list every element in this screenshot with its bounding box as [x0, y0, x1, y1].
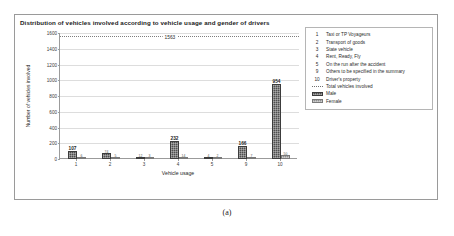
legend-code-key: 10: [310, 77, 324, 82]
legend-code-row: 9Others to be specified in the summary: [310, 68, 428, 75]
x-axis-tick-label: 2: [109, 162, 112, 167]
swatch-glyph: [312, 92, 323, 96]
bar-female[interactable]: 3: [145, 157, 154, 159]
bar-male[interactable]: 954: [272, 84, 281, 159]
y-axis-tick-label: 800: [49, 94, 57, 99]
x-axis-tick-label: 1: [75, 162, 78, 167]
y-axis-tick-label: 1000: [47, 78, 57, 83]
legend-code-label: Others to be specified in the summary: [324, 69, 405, 74]
x-axis-tick-mark: [212, 159, 213, 161]
x-axis-tick-mark: [144, 159, 145, 161]
bar-value-label: 12: [139, 154, 143, 158]
bar-value-label: 166: [238, 141, 246, 146]
legend-series-row[interactable]: Total vehicles involved: [310, 83, 428, 90]
legend-series-keys: Total vehicles involvedMaleFemale: [310, 83, 428, 105]
legend-series-label: Female: [324, 99, 342, 104]
legend-dotted-line-swatch: [310, 86, 324, 87]
bar-value-label: 232: [170, 136, 178, 141]
bar-female[interactable]: 7: [247, 157, 256, 159]
legend-code-row: 5On the run after the accident: [310, 61, 428, 68]
bar-value-label: 2: [217, 154, 219, 158]
legend-code-key: 5: [310, 62, 324, 67]
bar-value-label: 7: [251, 154, 253, 158]
y-axis-tick-label: 1200: [47, 62, 57, 67]
bar-female[interactable]: 14: [179, 157, 188, 159]
bar-group: 95450: [271, 33, 291, 159]
bar-value-label: 5: [115, 154, 117, 158]
bar-female[interactable]: 6: [77, 157, 86, 159]
chart-figure: Distribution of vehicles involved accord…: [14, 14, 438, 200]
y-axis-tick-label: 200: [49, 141, 57, 146]
legend-series-row[interactable]: Male: [310, 90, 428, 97]
x-axis-tick-mark: [280, 159, 281, 161]
y-axis-tick-label: 1600: [47, 31, 57, 36]
legend-code-row: 2Transport of goods: [310, 38, 428, 45]
bar-group: 23214: [169, 33, 189, 159]
bar-male[interactable]: 232: [170, 141, 179, 159]
x-axis-tick-label: 5: [211, 162, 214, 167]
x-axis-tick-label: 3: [143, 162, 146, 167]
legend-code-label: Driver's property: [324, 77, 360, 82]
legend-code-label: Rent, Ready, Fly: [324, 54, 361, 59]
legend-code-row: 3State vehicle: [310, 46, 428, 53]
y-axis-title-text: Number of vehicles involved: [25, 65, 31, 128]
plot-wrapper: 02004006008001000120014001600 1563 10767…: [59, 33, 297, 177]
legend-code-key: 3: [310, 47, 324, 52]
chart-legend: 1Taxi or TP Voyageurs2Transport of goods…: [305, 27, 433, 110]
legend-female-swatch: [310, 99, 324, 103]
x-axis-tick-mark: [178, 159, 179, 161]
x-axis-tick-mark: [110, 159, 111, 161]
bar-value-label: 50: [284, 152, 288, 156]
bar-group: 1076: [67, 33, 87, 159]
x-axis-title: Vehicle usage: [162, 170, 194, 176]
legend-code-key: 1: [310, 32, 324, 37]
legend-code-label: Taxi or TP Voyageurs: [324, 32, 370, 37]
y-axis-tick-label: 0: [54, 157, 57, 162]
bar-group: 42: [203, 33, 223, 159]
legend-code-row: 4Rent, Ready, Fly: [310, 53, 428, 60]
x-axis-tick-label: 4: [177, 162, 180, 167]
bar-group: 745: [101, 33, 121, 159]
bar-male[interactable]: 166: [238, 146, 247, 159]
legend-male-swatch: [310, 92, 324, 96]
legend-code-row: 1Taxi or TP Voyageurs: [310, 31, 428, 38]
bar-value-label: 4: [208, 154, 210, 158]
y-axis-tick-label: 1400: [47, 46, 57, 51]
y-axis-tick-mark: [58, 159, 60, 160]
plot-area: 02004006008001000120014001600 1563 10767…: [59, 33, 297, 159]
swatch-glyph: [312, 99, 323, 103]
legend-series-label: Total vehicles involved: [324, 84, 373, 89]
y-axis-tick-label: 400: [49, 125, 57, 130]
bar-value-label: 3: [149, 154, 151, 158]
legend-code-label: On the run after the accident: [324, 62, 385, 67]
x-axis-tick-label: 10: [277, 162, 282, 167]
legend-code-row: 10Driver's property: [310, 75, 428, 82]
bar-female[interactable]: 5: [111, 157, 120, 159]
bar-group: 123: [135, 33, 155, 159]
legend-code-key: 4: [310, 54, 324, 59]
bar-value-label: 107: [68, 146, 76, 151]
legend-series-row[interactable]: Female: [310, 98, 428, 105]
legend-code-label: State vehicle: [324, 47, 353, 52]
y-axis-tick-label: 600: [49, 109, 57, 114]
x-axis-tick-mark: [76, 159, 77, 161]
legend-code-key: 9: [310, 69, 324, 74]
bar-value-label: 74: [105, 150, 109, 154]
bar-series-container: 10767451232321442166795450: [60, 33, 297, 159]
chart-title: Distribution of vehicles involved accord…: [20, 19, 270, 26]
bar-value-label: 14: [182, 154, 186, 158]
legend-category-codes: 1Taxi or TP Voyageurs2Transport of goods…: [310, 31, 428, 83]
legend-series-label: Male: [324, 91, 336, 96]
legend-code-key: 2: [310, 40, 324, 45]
bar-group: 1667: [237, 33, 257, 159]
bar-male[interactable]: 107: [68, 151, 77, 159]
bar-value-label: 954: [272, 79, 280, 84]
x-axis-tick-mark: [246, 159, 247, 161]
bar-female[interactable]: 50: [281, 155, 290, 159]
swatch-glyph: [312, 86, 323, 87]
bar-female[interactable]: 2: [213, 157, 222, 159]
x-axis-tick-label: 9: [245, 162, 248, 167]
y-axis-title: Number of vehicles involved: [23, 33, 33, 159]
figure-caption: (a): [0, 208, 454, 217]
legend-code-label: Transport of goods: [324, 40, 365, 45]
